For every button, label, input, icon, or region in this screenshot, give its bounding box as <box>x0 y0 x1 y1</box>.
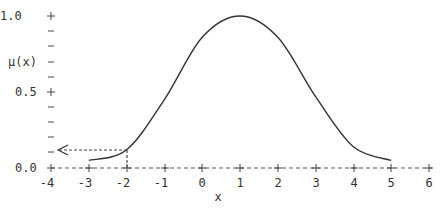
y-axis-label: μ(x) <box>8 55 37 69</box>
membership-function-chart: 1.0 μ(x) 0.5 0.0 -4 -3 -2 <box>0 0 443 211</box>
x-tick-label: 1 <box>236 176 243 190</box>
x-tick-label: -4 <box>40 176 54 190</box>
membership-curve <box>89 16 391 160</box>
x-tick-label: -2 <box>116 176 130 190</box>
x-tick-label: 6 <box>425 176 432 190</box>
y-tick-label-0-0: 0.0 <box>15 161 37 175</box>
x-tick-label: 2 <box>274 176 281 190</box>
x-tick-label: -3 <box>78 176 92 190</box>
x-tick-labels: -4 -3 -2 -1 0 1 2 3 4 5 6 <box>40 176 433 190</box>
x-tick-label: 0 <box>198 176 205 190</box>
x-tick-label: 5 <box>387 176 394 190</box>
x-tick-label: -1 <box>154 176 168 190</box>
x-tick-label: 4 <box>350 176 357 190</box>
x-tick-label: 3 <box>312 176 319 190</box>
y-tick-label-1-0: 1.0 <box>0 9 22 23</box>
y-axis-ticks <box>47 12 55 152</box>
y-tick-label-0-5: 0.5 <box>15 85 37 99</box>
x-axis-label: x <box>214 190 221 204</box>
